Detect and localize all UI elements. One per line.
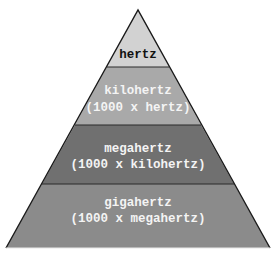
label-kilohertz-formula: (1000 x hertz)	[85, 101, 190, 115]
label-gigahertz: gigahertz	[104, 196, 172, 210]
label-megahertz: megahertz	[104, 142, 172, 156]
frequency-pyramid: hertz kilohertz (1000 x hertz) megahertz…	[0, 0, 272, 253]
label-hertz: hertz	[119, 48, 157, 62]
label-gigahertz-formula: (1000 x megahertz)	[70, 212, 205, 226]
label-megahertz-formula: (1000 x kilohertz)	[70, 158, 205, 172]
label-kilohertz: kilohertz	[104, 84, 172, 98]
